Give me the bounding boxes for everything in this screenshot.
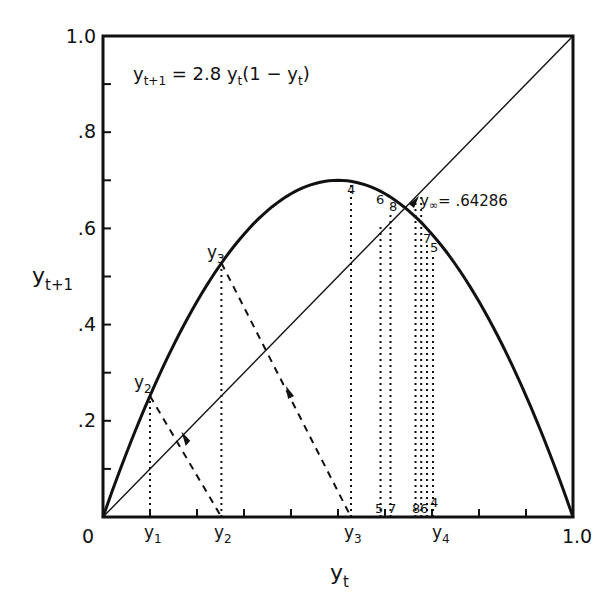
x-label-y4: y4 (432, 522, 450, 546)
iterate-label-5: 5 (430, 240, 438, 255)
x-label-y1: y1 (144, 522, 162, 546)
dashed-transfers (150, 263, 351, 517)
arrow-icon (181, 431, 190, 447)
arrow-icon (286, 386, 294, 399)
iterate-label-8: 8 (389, 199, 397, 214)
curve-label-y2: y2 (134, 372, 152, 396)
axis-num-6: 6 (420, 501, 428, 516)
x-label-y3: y3 (344, 522, 362, 546)
y-tick-label: .4 (78, 313, 96, 335)
x-end-label: 1.0 (562, 525, 592, 547)
x-origin-label: 0 (82, 525, 94, 547)
logistic-curve (103, 180, 573, 517)
y-tick-label: .8 (78, 120, 96, 142)
iterate-label-6: 6 (376, 192, 384, 207)
iterate-label-4: 4 (347, 182, 355, 197)
axis-num-4: 4 (430, 495, 438, 510)
axis-num-7: 7 (388, 501, 396, 516)
fixed-point-label: y∞= .64286 (420, 192, 508, 212)
equation: yt+1 = 2.8 yt(1 − yt) (133, 63, 310, 88)
identity-line (103, 36, 573, 517)
y-tick-label: .6 (78, 217, 96, 239)
x-label-y2: y2 (214, 522, 232, 546)
axis-num-5: 5 (375, 501, 383, 516)
y-tick-label: 1.0 (66, 25, 96, 47)
y-tick-label: .2 (78, 409, 96, 431)
x-axis-title: yt (330, 560, 349, 591)
curve-label-y3: y3 (207, 242, 225, 266)
y-axis-title: yt+1 (32, 263, 73, 294)
cobweb-chart: yt+1 = 2.8 yt(1 − yt) 1.0 .8 .6 .4 .2 0 … (0, 0, 614, 604)
